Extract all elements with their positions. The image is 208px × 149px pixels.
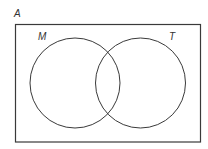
set-t-circle	[96, 38, 186, 128]
venn-canvas	[0, 0, 208, 149]
set-m-label: M	[38, 32, 46, 42]
set-m-circle	[30, 38, 120, 128]
universal-set-label: A	[14, 9, 21, 19]
set-t-label: T	[169, 32, 175, 42]
universal-set-rectangle	[16, 25, 201, 143]
venn-diagram: A M T	[0, 0, 208, 149]
